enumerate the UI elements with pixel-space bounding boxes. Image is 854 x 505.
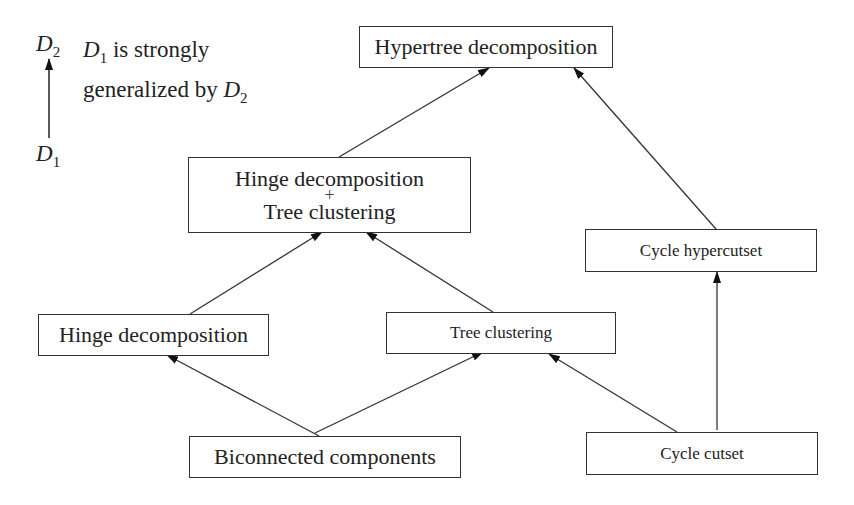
edge-bicon-to-hinge <box>167 355 319 436</box>
legend-line2-text: generalized by <box>83 77 223 102</box>
edge-hinge-to-hingetree <box>190 232 322 314</box>
legend-line1-symbol: D <box>83 37 100 62</box>
edge-cyclehyper-to-hypertree <box>574 68 716 229</box>
node-label: Tree clustering <box>450 324 552 342</box>
legend-d2-symbol: D <box>36 31 53 56</box>
legend-d1-symbol: D <box>36 141 53 166</box>
node-label: Cycle hypercutset <box>640 242 762 260</box>
legend-line1-text: is strongly <box>107 37 209 62</box>
node-cycle-cutset: Cycle cutset <box>586 432 818 475</box>
legend-d1: D1 <box>36 141 60 171</box>
node-hinge-plus-tree-clustering: Hinge decomposition + Tree clustering <box>188 157 471 233</box>
legend-line-1: D1 is strongly <box>83 34 248 74</box>
node-biconnected-components: Biconnected components <box>189 436 461 478</box>
node-hinge-decomposition: Hinge decomposition <box>38 314 269 356</box>
legend-line1-sub: 1 <box>100 50 108 66</box>
edge-cutset-to-tree <box>549 354 677 432</box>
legend-d2: D2 <box>36 31 60 61</box>
node-label: Hinge decomposition <box>59 323 248 346</box>
node-label: Hypertree decomposition <box>375 35 598 58</box>
legend-line2-sub: 2 <box>240 89 248 105</box>
node-hypertree-decomposition: Hypertree decomposition <box>359 26 613 68</box>
legend-d2-sub: 2 <box>53 44 61 60</box>
edge-bicon-to-tree <box>315 352 483 433</box>
legend-line2-symbol: D <box>223 77 240 102</box>
node-label-line2: Tree clustering <box>264 200 396 223</box>
node-label: Cycle cutset <box>660 445 744 463</box>
node-cycle-hypercutset: Cycle hypercutset <box>585 229 817 272</box>
legend-d1-sub: 1 <box>53 154 61 170</box>
legend-description: D1 is strongly generalized by D2 <box>83 34 248 113</box>
edge-hingetree-to-hypertree <box>339 68 489 157</box>
edge-tree-to-hingetree <box>366 232 493 312</box>
node-tree-clustering: Tree clustering <box>386 312 616 354</box>
node-label: Biconnected components <box>214 445 436 468</box>
legend-line-2: generalized by D2 <box>83 74 248 114</box>
